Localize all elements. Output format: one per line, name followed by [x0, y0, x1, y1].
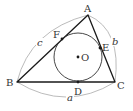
label-e: E: [102, 42, 109, 53]
tangent-point-f: [61, 38, 64, 41]
label-d: D: [74, 86, 82, 97]
center-point-o: [77, 56, 80, 59]
tangent-point-e: [99, 47, 102, 50]
label-side-b: b: [112, 36, 118, 47]
label-a-vertex: A: [83, 3, 92, 14]
label-b-vertex: B: [6, 77, 13, 88]
tangent-point-d: [77, 81, 80, 84]
label-c-vertex: C: [117, 80, 125, 91]
label-f: F: [53, 29, 60, 40]
label-side-c: c: [37, 37, 43, 48]
label-o: O: [81, 52, 89, 63]
label-side-a: a: [67, 92, 73, 103]
incircle-diagram: A B C D E F O a b c: [0, 0, 133, 111]
